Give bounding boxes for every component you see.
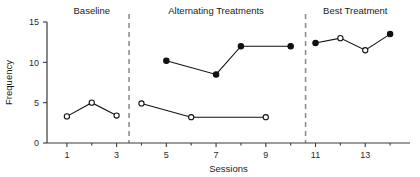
y-axis-title: Frequency — [3, 60, 14, 105]
data-point-filled — [213, 72, 218, 77]
data-point-filled — [387, 31, 392, 36]
phase-label-alternating-treatments: Alternating Treatments — [168, 5, 264, 16]
data-point-filled — [313, 40, 318, 45]
x-tick-label: 7 — [214, 150, 219, 160]
x-tick-label: 9 — [263, 150, 268, 160]
data-point-open — [189, 115, 194, 120]
data-point-filled — [238, 44, 243, 49]
axes — [47, 22, 410, 143]
data-point-filled — [164, 58, 169, 63]
series-line — [166, 46, 290, 74]
y-tick-label: 0 — [34, 138, 39, 148]
y-tick-label: 5 — [34, 98, 39, 108]
x-tick-label: 3 — [114, 150, 119, 160]
y-axis-ticks: 051015 — [29, 17, 47, 148]
series-line — [141, 103, 265, 117]
data-point-open — [263, 115, 268, 120]
x-tick-label: 1 — [64, 150, 69, 160]
x-tick-label: 13 — [360, 150, 370, 160]
data-series-group — [64, 31, 393, 119]
data-point-filled — [288, 44, 293, 49]
phase-divider-lines — [129, 14, 306, 143]
data-point-open — [114, 113, 119, 118]
y-tick-label: 15 — [29, 17, 39, 27]
x-tick-label: 11 — [311, 150, 320, 160]
chart-canvas: Baseline Alternating Treatments Best Tre… — [0, 0, 420, 177]
phase-label-baseline: Baseline — [74, 5, 110, 16]
data-point-open — [64, 114, 69, 119]
y-tick-label: 10 — [29, 58, 39, 68]
data-point-open — [338, 36, 343, 41]
x-tick-label: 5 — [164, 150, 169, 160]
x-axis-ticks: 135791113 — [64, 143, 390, 160]
single-subject-design-chart: Baseline Alternating Treatments Best Tre… — [0, 0, 420, 177]
data-point-open — [89, 100, 94, 105]
series-line — [316, 34, 391, 50]
phase-label-best-treatment: Best Treatment — [323, 5, 388, 16]
data-point-open — [363, 48, 368, 53]
data-point-open — [139, 101, 144, 106]
phase-labels: Baseline Alternating Treatments Best Tre… — [74, 5, 388, 16]
x-axis-title: Sessions — [209, 163, 248, 174]
